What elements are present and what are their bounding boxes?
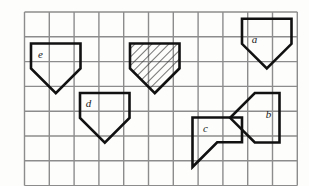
figure-canvas: abcde	[0, 0, 309, 186]
shape-label-d: d	[86, 97, 92, 109]
shape-label-b: b	[266, 108, 272, 120]
shape-label-c: c	[203, 122, 208, 134]
grid-shapes-figure: abcde	[0, 0, 309, 186]
shape-label-a: a	[252, 33, 258, 45]
shape-label-e: e	[38, 48, 43, 60]
